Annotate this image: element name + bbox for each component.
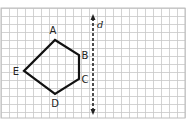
diagram-canvas: d ABCDE: [0, 0, 187, 122]
vertex-label-d: D: [51, 98, 59, 109]
line-label-d: d: [97, 19, 103, 30]
vertex-label-c: C: [82, 74, 89, 85]
reflection-diagram: d ABCDE: [0, 0, 187, 122]
arrow-down-icon: [91, 109, 96, 115]
vertex-label-e: E: [13, 66, 19, 77]
vertex-label-b: B: [82, 50, 89, 61]
vertex-label-a: A: [50, 25, 57, 36]
arrow-up-icon: [91, 14, 96, 20]
